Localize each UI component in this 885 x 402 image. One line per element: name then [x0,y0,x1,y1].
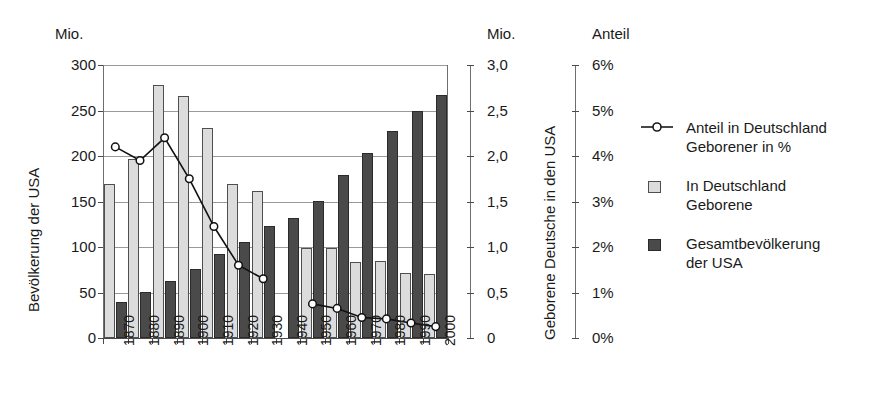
right-secondary-axis-tick [572,293,579,294]
x-axis-label-1950: 1950 [318,315,334,346]
x-axis-label-1890: 1890 [171,315,187,346]
chart-figure: Mio. Bevölkerung der USA Mio. Geborene D… [0,0,885,402]
right-primary-axis-title: Geborene Deutsche in den USA [542,126,557,340]
legend-item-anteil[interactable]: Anteil in Deutschland Geborener in % [640,118,880,156]
right-primary-axis-tick [467,247,474,248]
left-axis-tick-label: 150 [0,194,96,209]
right-secondary-axis-tick [572,65,579,66]
right-secondary-axis-tick-label: 4% [592,148,614,163]
x-axis-label-1910: 1910 [220,315,236,346]
right-primary-axis-tick-label: 0 [487,330,495,345]
legend-label-line2: Geborene [686,195,880,214]
line-marker-open-circle [259,275,267,283]
line-marker-open-circle [186,175,194,183]
right-secondary-axis-tick [572,111,579,112]
x-axis-label-1930: 1930 [269,315,285,346]
right-secondary-axis-tick [572,202,579,203]
right-secondary-axis-tick-label: 1% [592,285,614,300]
line-marker-open-circle [407,319,415,327]
right-primary-axis-tick-label: 0,5 [487,285,508,300]
legend-item-gesamtbevoelkerung[interactable]: Gesamtbevölkerung der USA [640,234,880,272]
right-primary-axis-tick [467,65,474,66]
right-primary-axis-tick [467,293,474,294]
line-marker-open-circle [358,314,366,322]
left-axis-unit-label: Mio. [55,26,83,41]
x-axis-label-1880: 1880 [146,315,162,346]
x-axis-label-1980: 1980 [392,315,408,346]
legend-label-line1: Anteil in Deutschland [686,118,880,137]
legend-label-line1: Gesamtbevölkerung [686,234,880,253]
swatch-dark-icon [640,236,674,250]
plot-area [103,65,448,338]
legend-label-line2: Geborener in % [686,137,880,156]
line-marker-open-circle [210,223,218,231]
right-secondary-axis-tick [572,247,579,248]
line-marker-open-circle [136,157,144,165]
line-marker-open-circle [161,134,169,142]
line-marker-open-circle [333,305,341,313]
right-primary-axis-tick [467,111,474,112]
right-primary-axis-tick [467,156,474,157]
legend-label-line2: der USA [686,253,880,272]
x-axis-label-1960: 1960 [343,315,359,346]
x-axis-label-1940: 1940 [294,315,310,346]
x-axis-label-1870: 1870 [121,315,137,346]
line-marker-open-circle [112,143,120,151]
right-primary-axis-tick [467,338,474,339]
legend-label-line1: In Deutschland [686,176,880,195]
x-axis-tick [103,338,104,344]
legend-item-in-deutschland-geborene[interactable]: In Deutschland Geborene [640,176,880,214]
x-axis-label-1900: 1900 [195,315,211,346]
left-axis-tick-label: 200 [0,148,96,163]
right-secondary-axis-tick-label: 6% [592,57,614,72]
line-series-layer [103,65,448,338]
left-axis-tick-label: 50 [0,285,96,300]
right-secondary-axis-unit-label: Anteil [592,26,630,41]
right-primary-axis-tick-label: 2,5 [487,103,508,118]
right-secondary-axis-tick-label: 2% [592,239,614,254]
right-primary-axis-tick-label: 1,0 [487,239,508,254]
x-axis-label-1990: 1990 [417,315,433,346]
right-secondary-axis-tick-label: 0% [592,330,614,345]
right-secondary-axis-tick-label: 3% [592,194,614,209]
left-axis-tick-label: 300 [0,57,96,72]
x-axis-label-2000: 2000 [442,315,458,346]
right-primary-axis-tick-label: 2,0 [487,148,508,163]
right-primary-axis-tick-label: 3,0 [487,57,508,72]
left-axis-tick-label: 0 [0,330,96,345]
left-axis-tick-label: 250 [0,103,96,118]
chart-legend: Anteil in Deutschland Geborener in % In … [640,118,880,292]
swatch-light-icon [640,178,674,192]
right-primary-axis-tick [467,202,474,203]
right-secondary-axis-tick [572,338,579,339]
x-axis-label-1970: 1970 [368,315,384,346]
right-secondary-axis-tick [572,156,579,157]
left-axis-tick-label: 100 [0,239,96,254]
x-axis-label-1920: 1920 [245,315,261,346]
right-primary-axis-tick-label: 1,5 [487,194,508,209]
right-primary-axis-unit-label: Mio. [487,26,515,41]
line-marker-open-circle [309,300,317,308]
line-marker-open-circle [432,323,440,331]
line-open-circle-icon [640,120,674,134]
cropped-title-remnant [245,0,250,11]
right-secondary-axis-tick-label: 5% [592,103,614,118]
line-marker-open-circle [235,261,243,269]
